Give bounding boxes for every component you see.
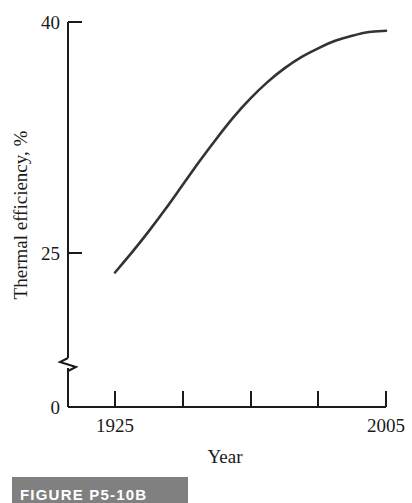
y-axis — [60, 22, 76, 407]
x-tick-label-1925: 1925 — [96, 415, 134, 436]
y-axis-ticks — [68, 22, 82, 407]
y-tick-label-0: 0 — [51, 397, 61, 418]
y-axis-title: Thermal efficiency, % — [10, 130, 31, 299]
y-tick-label-40: 40 — [41, 12, 60, 33]
figure-caption-text: FIGURE P5-10B — [20, 486, 147, 503]
x-tick-label-2005: 2005 — [367, 415, 405, 436]
figure-caption-bar: FIGURE P5-10B — [12, 477, 188, 503]
thermal-efficiency-curve — [115, 31, 386, 273]
x-axis-title: Year — [207, 446, 243, 467]
y-tick-label-25: 25 — [41, 243, 60, 264]
x-axis-ticks — [115, 391, 386, 407]
